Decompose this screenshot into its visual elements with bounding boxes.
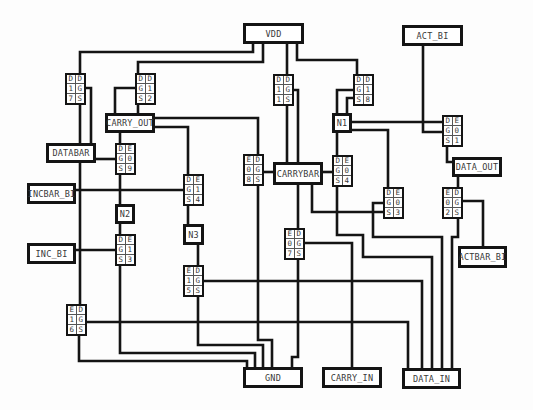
- transistor-terminal-label: 4: [194, 195, 203, 204]
- transistor-terminal-label: E: [444, 189, 453, 198]
- transistor-terminal-label: D: [444, 117, 453, 126]
- transistor-terminal-label: S: [355, 95, 364, 104]
- transistor-t01[interactable]: DEG0S1: [442, 115, 463, 147]
- transistor-terminal-label: E: [245, 156, 254, 165]
- node-databar[interactable]: DATABAR: [46, 143, 96, 163]
- transistor-terminal-label: S: [185, 195, 194, 204]
- wire-carry-out-t14: [155, 127, 188, 174]
- node-data-out[interactable]: DATA_OUT: [452, 157, 502, 177]
- transistor-terminal-label: S: [77, 325, 86, 334]
- wire-t02-source-data-in: [452, 218, 458, 368]
- node-data-in[interactable]: DATA_IN: [402, 368, 461, 389]
- transistor-terminal-label: 3: [394, 208, 403, 217]
- node-label: DATA_OUT: [456, 162, 499, 172]
- node-carrybar[interactable]: CARRYBAR: [273, 162, 323, 185]
- circuit-diagram: VDD ACT_BI CARRY_OUT N1 DATABAR CARRYBAR…: [0, 0, 533, 410]
- node-label: INC_BI: [36, 249, 68, 259]
- transistor-terminal-label: D: [284, 76, 293, 85]
- wire-t08-source-gnd: [258, 185, 272, 368]
- transistor-terminal-label: G: [185, 185, 194, 194]
- transistor-terminal-label: G: [194, 276, 203, 285]
- transistor-terminal-label: E: [68, 306, 77, 315]
- transistor-terminal-label: G: [254, 165, 263, 174]
- node-label: DATA_IN: [413, 374, 450, 384]
- node-actbar-bi[interactable]: ACTBAR_BI: [458, 246, 507, 268]
- transistor-terminal-label: D: [146, 75, 155, 84]
- node-label: ACT_BI: [417, 31, 449, 41]
- transistor-terminal-label: D: [194, 267, 203, 276]
- transistor-terminal-label: G: [334, 166, 343, 175]
- node-n2[interactable]: N2: [115, 204, 135, 224]
- transistor-t12[interactable]: DDG1S2: [135, 73, 156, 105]
- node-inc-bi[interactable]: INC_BI: [27, 243, 76, 264]
- transistor-terminal-label: 7: [286, 249, 295, 258]
- node-n1[interactable]: N1: [332, 113, 352, 133]
- wire-t18-gate-n1: [337, 90, 353, 113]
- node-n3[interactable]: N3: [183, 224, 204, 245]
- node-label: N3: [188, 230, 199, 240]
- wire-carry-out-t08: [155, 118, 258, 154]
- node-label: CARRY_OUT: [106, 118, 154, 128]
- transistor-t03[interactable]: DEG0S3: [383, 187, 404, 219]
- transistor-t17[interactable]: DD1G7S: [65, 73, 86, 105]
- transistor-terminal-label: S: [254, 175, 263, 184]
- transistor-terminal-label: D: [453, 189, 462, 198]
- transistor-terminal-label: D: [185, 176, 194, 185]
- transistor-t09[interactable]: DEG0S9: [115, 143, 136, 175]
- node-carry-in[interactable]: CARRY_IN: [322, 367, 382, 388]
- node-label: ACTBAR_BI: [459, 252, 507, 262]
- node-label: INCBAR_BI: [28, 189, 76, 199]
- transistor-terminal-label: D: [364, 76, 373, 85]
- transistor-terminal-label: E: [453, 117, 462, 126]
- transistor-terminal-label: G: [117, 245, 126, 254]
- transistor-t07[interactable]: ED0G7S: [284, 228, 305, 260]
- transistor-terminal-label: 1: [126, 245, 135, 254]
- node-act-bi[interactable]: ACT_BI: [402, 25, 463, 46]
- wire-t15a-gate-carrybar: [294, 90, 298, 163]
- transistor-t15b[interactable]: ED1G5S: [183, 265, 204, 297]
- transistor-terminal-label: E: [194, 176, 203, 185]
- transistor-t04[interactable]: DEG0S4: [332, 155, 353, 187]
- transistor-t18[interactable]: DDG1S8: [353, 74, 374, 106]
- transistor-terminal-label: 0: [394, 198, 403, 207]
- node-label: CARRY_IN: [331, 373, 374, 383]
- wire-act-bi-t01-gate: [423, 46, 442, 132]
- transistor-terminal-label: S: [453, 208, 462, 217]
- transistor-t14[interactable]: DEG1S4: [183, 174, 204, 206]
- transistor-terminal-label: 2: [146, 94, 155, 103]
- transistor-t16[interactable]: ED1G6S: [66, 304, 87, 336]
- node-vdd[interactable]: VDD: [243, 23, 304, 44]
- transistor-terminal-label: D: [67, 75, 76, 84]
- transistor-terminal-label: S: [334, 176, 343, 185]
- transistor-terminal-label: S: [117, 164, 126, 173]
- transistor-terminal-label: G: [453, 198, 462, 207]
- transistor-terminal-label: 8: [364, 95, 373, 104]
- node-carry-out[interactable]: CARRY_OUT: [105, 113, 155, 133]
- transistor-terminal-label: 2: [444, 208, 453, 217]
- transistor-t08[interactable]: ED0G8S: [243, 154, 264, 186]
- transistor-terminal-label: 1: [453, 136, 462, 145]
- transistor-terminal-label: S: [194, 286, 203, 295]
- transistor-terminal-label: D: [385, 189, 394, 198]
- transistor-terminal-label: 5: [185, 286, 194, 295]
- transistor-terminal-label: D: [76, 75, 85, 84]
- transistor-terminal-label: 1: [275, 95, 284, 104]
- transistor-terminal-label: G: [355, 85, 364, 94]
- transistor-terminal-label: D: [355, 76, 364, 85]
- transistor-terminal-label: S: [137, 94, 146, 103]
- wire-t07-source-gnd: [292, 259, 298, 368]
- transistor-t13[interactable]: DEG1S3: [115, 234, 136, 266]
- transistor-terminal-label: G: [76, 84, 85, 93]
- transistor-t02[interactable]: ED0G2S: [442, 187, 463, 219]
- transistor-terminal-label: E: [126, 145, 135, 154]
- transistor-terminal-label: 4: [343, 176, 352, 185]
- node-incbar-bi[interactable]: INCBAR_BI: [27, 183, 76, 204]
- transistor-t15a[interactable]: DD1G1S: [273, 74, 294, 106]
- transistor-terminal-label: D: [295, 230, 304, 239]
- node-label: N1: [337, 118, 348, 128]
- wire-t12-gate-carry-out: [115, 88, 135, 113]
- node-gnd[interactable]: GND: [243, 367, 303, 388]
- transistor-terminal-label: 0: [286, 239, 295, 248]
- wire-n1-t03: [352, 130, 388, 187]
- node-label: GND: [265, 373, 281, 383]
